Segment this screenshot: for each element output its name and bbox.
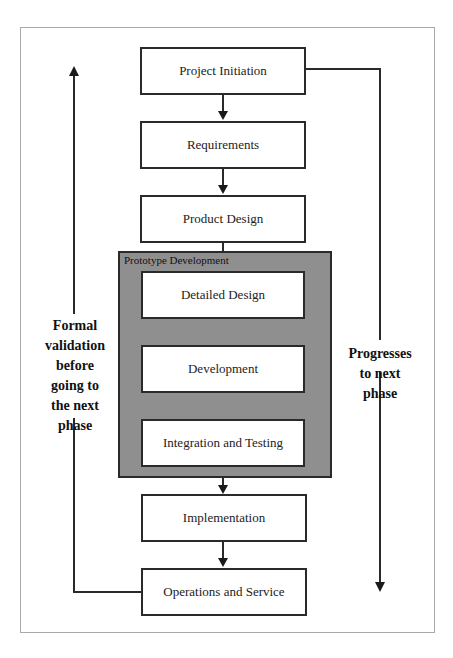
step-label: Product Design [183, 211, 264, 227]
step-label: Implementation [183, 510, 265, 526]
step-requirements: Requirements [140, 121, 306, 169]
step-operations-service: Operations and Service [141, 568, 307, 616]
group-label: Prototype Development [124, 254, 229, 266]
step-label: Integration and Testing [163, 435, 283, 451]
step-label: Project Initiation [179, 63, 267, 79]
left-side-label: Formal validation before going to the ne… [42, 316, 108, 436]
step-implementation: Implementation [141, 494, 307, 542]
step-label: Development [188, 361, 258, 377]
step-project-initiation: Project Initiation [140, 47, 306, 95]
step-label: Detailed Design [181, 287, 265, 303]
step-label: Requirements [187, 137, 259, 153]
step-development: Development [141, 345, 305, 393]
right-side-label: Progresses to next phase [342, 344, 418, 404]
step-product-design: Product Design [140, 195, 306, 243]
step-integration-testing: Integration and Testing [141, 419, 305, 467]
step-label: Operations and Service [163, 584, 284, 600]
step-detailed-design: Detailed Design [141, 271, 305, 319]
